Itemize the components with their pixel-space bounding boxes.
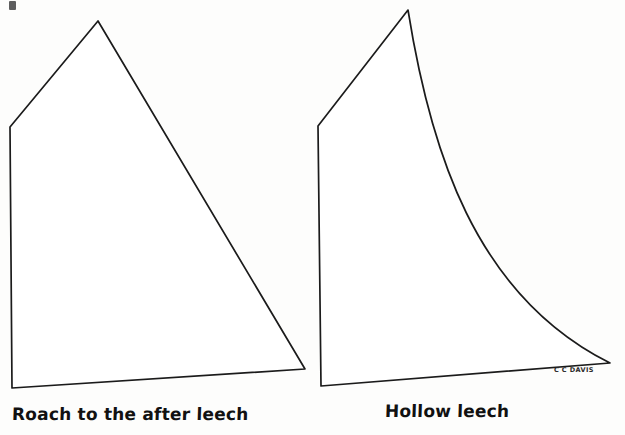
diagram-page: Roach to the after leech Hollow leech C … bbox=[0, 0, 625, 435]
caption-roach-sail: Roach to the after leech bbox=[12, 404, 249, 424]
sail-shape-hollow bbox=[318, 10, 610, 386]
sail-shape-roach bbox=[10, 21, 305, 388]
roach-sail-outline bbox=[10, 21, 305, 388]
caption-hollow-sail: Hollow leech bbox=[385, 401, 510, 421]
sail-diagram-canvas bbox=[0, 0, 625, 435]
hollow-sail-outline bbox=[318, 10, 610, 386]
artist-signature: C C DAVIS bbox=[554, 366, 594, 374]
scan-speck-artifact bbox=[9, 1, 16, 10]
